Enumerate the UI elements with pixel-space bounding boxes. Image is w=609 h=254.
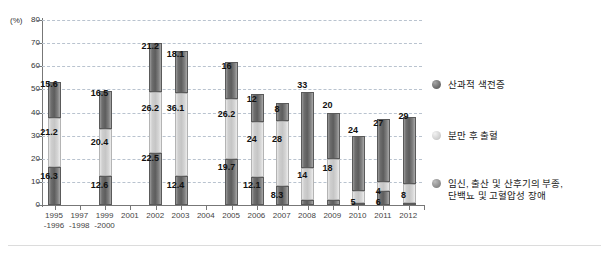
- footer-divider: [8, 245, 601, 246]
- value-label-1999-middle: 20.4: [85, 138, 115, 147]
- bar-segment-embolism: [377, 119, 390, 181]
- legend-label-hemorrhage: 분만 후 출혈: [448, 130, 498, 142]
- bar-segment-embolism: [352, 136, 365, 192]
- value-label-2005-middle: 26.2: [211, 110, 241, 119]
- bar-segment-hemorrhage: [149, 92, 162, 153]
- legend-label-line1: 임신, 출산 및 산후기의 부종,: [448, 178, 563, 189]
- bar-segment-embolism: [403, 117, 416, 184]
- legend-swatch-circle-icon: [432, 131, 441, 140]
- chart-legend: 산과적 색전증 분만 후 출혈 임신, 출산 및 산후기의 부종, 단백뇨 및 …: [432, 20, 607, 205]
- bar-segment-hemorrhage: [48, 118, 61, 167]
- value-label-2007-bottom: 8.3: [262, 191, 292, 200]
- value-label-2002-bottom: 22.5: [135, 154, 165, 163]
- value-label-2003-middle: 36.1: [161, 104, 191, 113]
- value-label-2006-top: 12: [237, 95, 267, 104]
- x-label-line2: -2000: [86, 221, 124, 231]
- legend-label-embolism: 산과적 색전증: [448, 79, 505, 91]
- legend-item-embolism[interactable]: 산과적 색전증: [432, 79, 505, 91]
- bar-segment-hemorrhage: [251, 122, 264, 178]
- legend-label-hypertension: 임신, 출산 및 산후기의 부종, 단백뇨 및 고혈압성 장애: [448, 178, 563, 202]
- legend-item-hemorrhage[interactable]: 분만 후 출혈: [432, 130, 498, 142]
- x-tick-label-2012: 2012: [389, 211, 427, 221]
- value-label-1999-bottom: 12.6: [85, 181, 115, 190]
- value-label-1999-top: 16.5: [85, 89, 115, 98]
- legend-swatch-circle-icon: [432, 179, 441, 188]
- value-label-1995-top: 15.6: [34, 80, 64, 89]
- bar-segment-hemorrhage: [99, 129, 112, 176]
- plot-area: 16.3 21.2 15.6 12.6 20.4 16.5 22.5 26.2 …: [42, 20, 422, 205]
- value-label-2008-top: 33: [287, 81, 317, 90]
- value-label-2005-top: 16: [211, 62, 241, 71]
- value-label-2012-top: 29: [389, 112, 419, 121]
- bar-segment-hemorrhage: [225, 99, 238, 160]
- bar-segment-embolism: [327, 113, 340, 159]
- legend-label-line2: 단백뇨 및 고혈압성 장애: [448, 190, 546, 201]
- gridline-70: [42, 43, 422, 44]
- value-label-2012-middle: 8: [389, 191, 419, 200]
- legend-swatch-circle-icon: [432, 80, 441, 89]
- value-label-1995-bottom: 16.3: [34, 172, 64, 181]
- value-label-1995-middle: 21.2: [34, 128, 64, 137]
- value-label-2007-middle: 28: [262, 135, 292, 144]
- gridline-80: [42, 20, 422, 21]
- value-label-2005-bottom: 19.7: [211, 163, 241, 172]
- value-label-2009-top: 20: [313, 101, 343, 110]
- value-label-2003-bottom: 12.4: [161, 181, 191, 190]
- value-label-2003-top: 18.1: [161, 50, 191, 59]
- legend-item-hypertension[interactable]: 임신, 출산 및 산후기의 부종, 단백뇨 및 고혈압성 장애: [432, 178, 563, 202]
- chart-container: (%) 80 70 60 50 40 30 20 10 0: [0, 0, 609, 254]
- value-label-2006-bottom: 12.1: [237, 181, 267, 190]
- value-label-2007-top: 8: [262, 105, 292, 114]
- value-label-2009-middle: 18: [313, 164, 343, 173]
